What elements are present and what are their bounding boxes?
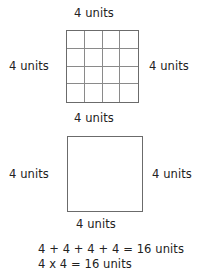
grid-cell [85,31,103,49]
grid-cell [67,84,85,102]
equation-multiplication: 4 x 4 = 16 units [38,257,184,272]
plain-square-right-label: 4 units [152,167,192,181]
grid-cell [103,67,121,85]
grid-cell [67,49,85,67]
grid-cell [120,49,138,67]
plain-square-bottom-label: 4 units [76,217,116,231]
plain-square [67,136,143,212]
grid-cell [120,67,138,85]
equation-addition: 4 + 4 + 4 + 4 = 16 units [38,242,184,257]
gridded-square-top-label: 4 units [74,6,114,20]
gridded-square-left-label: 4 units [9,59,49,73]
grid-cell [85,84,103,102]
grid-cell [120,31,138,49]
gridded-square [66,30,139,103]
perimeter-diagram: 4 units 4 units 4 units 4 units 4 units … [0,0,213,276]
plain-square-left-label: 4 units [9,167,49,181]
grid-cell [103,49,121,67]
gridded-square-bottom-label: 4 units [74,111,114,125]
equation-list: 4 + 4 + 4 + 4 = 16 units 4 x 4 = 16 unit… [38,242,184,271]
grid-cell [85,49,103,67]
gridded-square-right-label: 4 units [149,59,189,73]
grid-cell [103,31,121,49]
grid-cell [120,84,138,102]
grid-cell [67,31,85,49]
grid-cell [67,67,85,85]
grid-cell [85,67,103,85]
grid-cell [103,84,121,102]
